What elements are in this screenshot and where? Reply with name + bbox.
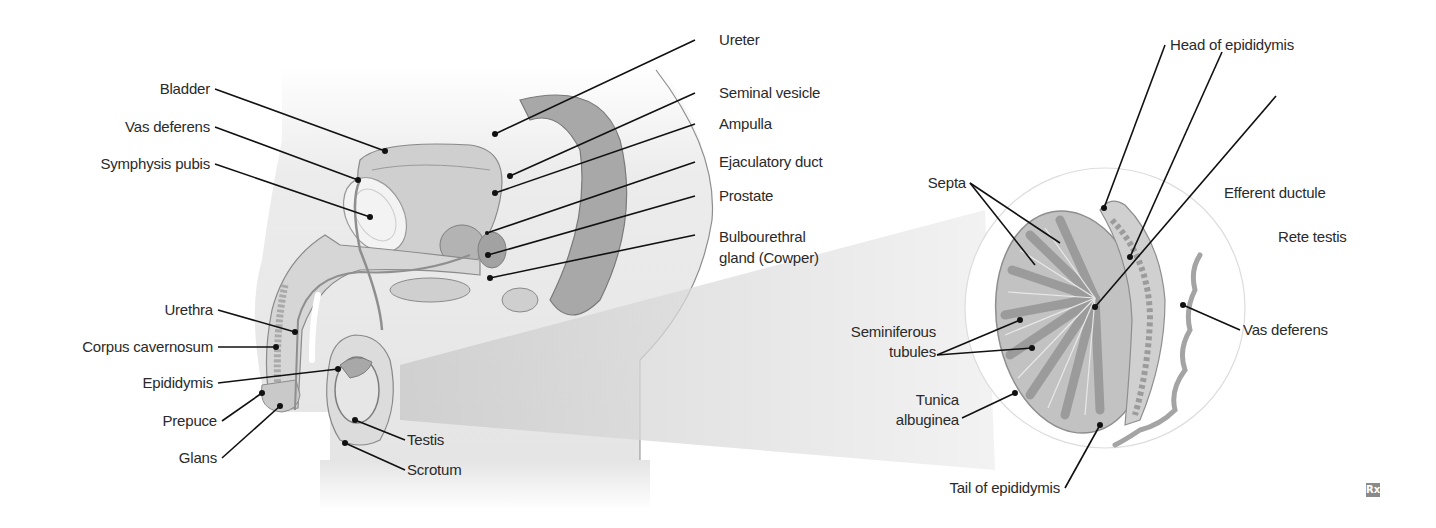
label-vas-deferens-detail: Vas deferens	[1243, 321, 1328, 339]
label-ureter: Ureter	[719, 31, 759, 49]
label-corpus-cavernosum: Corpus cavernosum	[82, 338, 213, 356]
label-glans: Glans	[179, 449, 217, 467]
label-ampulla: Ampulla	[719, 115, 772, 133]
label-head-of-epididymis: Head of epididymis	[1170, 36, 1294, 54]
label-vas-deferens: Vas deferens	[125, 118, 210, 136]
label-seminiferous-tubules: Seminiferous tubules	[851, 322, 936, 362]
label-efferent-ductule-visible: Efferent ductule	[1224, 184, 1326, 202]
anatomy-diagram: Bladder Vas deferens Symphysis pubis Ure…	[0, 0, 1436, 528]
label-bulbourethral-gland: Bulbourethral gland (Cowper)	[719, 226, 819, 268]
label-seminal-vesicle: Seminal vesicle	[719, 84, 820, 102]
label-prostate: Prostate	[719, 187, 773, 205]
label-tunica-albuginea: Tunica albuginea	[896, 390, 959, 430]
label-septa: Septa	[928, 174, 966, 192]
label-testis: Testis	[407, 431, 444, 449]
label-bladder: Bladder	[160, 80, 210, 98]
rx-icon: Rx	[1366, 483, 1380, 497]
label-tail-of-epididymis: Tail of epididymis	[949, 479, 1060, 497]
label-symphysis-pubis: Symphysis pubis	[100, 155, 210, 173]
label-rete-testis: Rete testis	[1278, 228, 1347, 246]
label-scrotum: Scrotum	[407, 461, 461, 479]
label-prepuce: Prepuce	[163, 412, 217, 430]
label-epididymis: Epididymis	[142, 374, 213, 392]
label-ejaculatory-duct: Ejaculatory duct	[719, 153, 823, 171]
label-urethra: Urethra	[164, 301, 213, 319]
